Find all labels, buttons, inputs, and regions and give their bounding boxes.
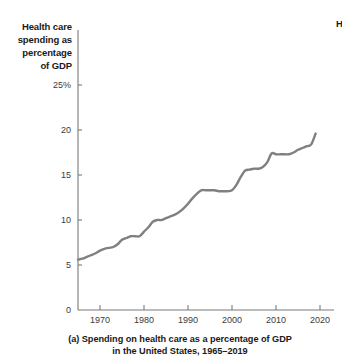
- line-chart: 0510152025%197019801990200020102020: [0, 0, 359, 360]
- x-tick-label: 2020: [310, 315, 330, 325]
- adjacent-panel-partial-label: H: [336, 18, 342, 29]
- y-tick-label: 0: [66, 305, 71, 315]
- y-tick-label: 25%: [53, 80, 71, 90]
- caption-line-1: (a) Spending on health care as a percent…: [20, 333, 340, 345]
- figure-caption: (a) Spending on health care as a percent…: [20, 333, 340, 357]
- y-tick-label: 15: [61, 170, 71, 180]
- y-tick-label: 5: [66, 260, 71, 270]
- y-tick-label: 20: [61, 125, 71, 135]
- caption-line-2: in the United States, 1965–2019: [20, 345, 340, 357]
- figure-panel-a: Health care spending as percentage of GD…: [0, 0, 359, 360]
- x-tick-label: 1980: [134, 315, 154, 325]
- x-tick-label: 2000: [222, 315, 242, 325]
- data-line-health-care-spending: [78, 134, 316, 260]
- y-tick-label: 10: [61, 215, 71, 225]
- x-tick-label: 1970: [90, 315, 110, 325]
- x-tick-label: 1990: [178, 315, 198, 325]
- x-tick-label: 2010: [266, 315, 286, 325]
